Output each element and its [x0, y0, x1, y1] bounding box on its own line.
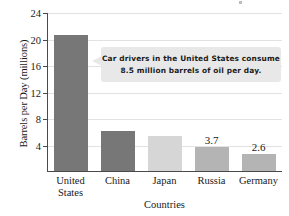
bar [54, 35, 88, 171]
category-label-line: Russia [188, 175, 235, 187]
y-tick-label: 8 [36, 114, 41, 125]
category-label-line: Japan [141, 175, 188, 187]
category-label: Japan [141, 175, 188, 187]
category-label: Russia [188, 175, 235, 187]
y-tick-label: 24 [31, 8, 42, 19]
x-axis-title: Countries [47, 199, 282, 210]
plot-area: 4812162024 3.72.6 [47, 13, 282, 172]
bar: 3.7 [195, 147, 229, 172]
category-label: Germany [235, 175, 282, 187]
bar-value-label: 3.7 [205, 134, 219, 146]
bar-chart-figure: Barrels per Day (millions) 4812162024 3.… [0, 0, 289, 216]
category-label: China [94, 175, 141, 187]
bar [148, 136, 182, 171]
y-axis-line [47, 13, 48, 172]
bar [101, 131, 135, 171]
category-label-line: China [94, 175, 141, 187]
category-label-line: States [47, 187, 94, 199]
y-tick-label: 12 [31, 87, 42, 98]
y-tick-label: 20 [31, 34, 42, 45]
bar: 2.6 [242, 154, 276, 171]
y-axis-title: Barrels per Day (millions) [18, 19, 29, 169]
y-tick-label: 16 [31, 61, 42, 72]
annotation-line-2: 8.5 million barrels of oil per day. [121, 65, 262, 77]
category-label-line: United [47, 175, 94, 187]
x-axis-line [47, 171, 282, 172]
category-label-line: Germany [235, 175, 282, 187]
bar-value-label: 2.6 [252, 141, 266, 153]
y-tick-label: 4 [36, 140, 41, 151]
annotation-callout: Car drivers in the United States consume… [101, 47, 281, 82]
gridline [47, 13, 282, 14]
annotation-line-1: Car drivers in the United States consume [102, 53, 280, 65]
top-edge-artifact [239, 1, 242, 4]
category-label: UnitedStates [47, 175, 94, 198]
